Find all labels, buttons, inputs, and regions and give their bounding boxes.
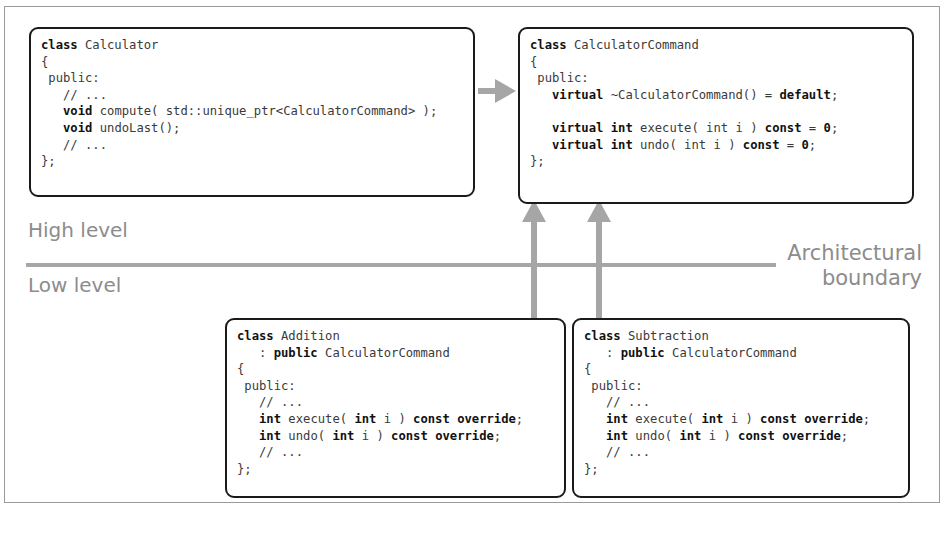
code-text: : xyxy=(237,346,274,360)
code-text: i ) xyxy=(723,412,760,426)
code-line: }; xyxy=(584,461,898,478)
code-text: ; xyxy=(809,138,816,152)
code-text: ; xyxy=(516,412,523,426)
code-text: i ) xyxy=(354,429,391,443)
code-text: // ... xyxy=(41,88,107,102)
code-text: // ... xyxy=(41,138,107,152)
code-text: // ... xyxy=(237,395,303,409)
code-text: ~CalculatorCommand() = xyxy=(603,88,779,102)
code-keyword: int xyxy=(611,138,633,152)
code-line: // ... xyxy=(584,444,898,461)
code-line: { xyxy=(530,54,902,71)
code-line: void compute( std::unique_ptr<Calculator… xyxy=(41,103,463,120)
code-text: undo( xyxy=(281,429,332,443)
code-line: int undo( int i ) const override; xyxy=(584,428,898,445)
code-keyword: virtual xyxy=(552,88,603,102)
boundary-label-line1: Architectural xyxy=(787,241,922,266)
code-text xyxy=(584,429,606,443)
code-text: // ... xyxy=(237,445,303,459)
code-keyword: int xyxy=(679,429,701,443)
code-keyword: int xyxy=(259,412,281,426)
code-text xyxy=(530,138,552,152)
code-line: { xyxy=(237,361,554,378)
code-text: execute( xyxy=(628,412,701,426)
code-keyword: const override xyxy=(738,429,841,443)
code-text: undo( xyxy=(628,429,679,443)
code-line: // ... xyxy=(237,394,554,411)
code-text xyxy=(584,412,606,426)
code-keyword: 0 xyxy=(824,121,831,135)
code-text xyxy=(41,104,63,118)
code-keyword: class xyxy=(530,38,567,52)
addition-class-box: class Addition : public CalculatorComman… xyxy=(225,318,566,498)
code-text: Calculator xyxy=(78,38,159,52)
code-text: }; xyxy=(237,462,252,476)
code-text xyxy=(237,429,259,443)
code-text: CalculatorCommand xyxy=(318,346,450,360)
code-line: : public CalculatorCommand xyxy=(584,345,898,362)
code-text: CalculatorCommand xyxy=(665,346,797,360)
code-keyword: virtual xyxy=(552,121,603,135)
code-text: = xyxy=(780,138,802,152)
code-line: class Subtraction xyxy=(584,328,898,345)
architectural-boundary-label: Architectural boundary xyxy=(787,241,922,291)
code-line: int execute( int i ) const override; xyxy=(584,411,898,428)
code-keyword: int xyxy=(606,429,628,443)
code-keyword: 0 xyxy=(802,138,809,152)
code-text xyxy=(603,121,610,135)
code-line: int undo( int i ) const override; xyxy=(237,428,554,445)
code-keyword: int xyxy=(354,412,376,426)
code-text: compute( std::unique_ptr<CalculatorComma… xyxy=(92,104,437,118)
code-line: class Calculator xyxy=(41,37,463,54)
code-text: ; xyxy=(841,429,848,443)
code-line: }; xyxy=(530,153,902,170)
code-text: i ) xyxy=(701,429,738,443)
code-line: public: xyxy=(584,378,898,395)
subtraction-class-box: class Subtraction : public CalculatorCom… xyxy=(572,318,910,498)
code-text: { xyxy=(237,362,244,376)
code-line: }; xyxy=(41,153,463,170)
code-line: void undoLast(); xyxy=(41,120,463,137)
code-text: execute( int i ) xyxy=(633,121,765,135)
code-line: public: xyxy=(237,378,554,395)
code-line: virtual int execute( int i ) const = 0; xyxy=(530,120,902,137)
code-text xyxy=(41,121,63,135)
code-keyword: const override xyxy=(760,412,863,426)
code-text: undo( int i ) xyxy=(633,138,743,152)
high-level-label: High level xyxy=(28,218,128,242)
code-keyword: int xyxy=(611,121,633,135)
code-text: // ... xyxy=(584,445,650,459)
code-line: // ... xyxy=(41,87,463,104)
code-line: virtual ~CalculatorCommand() = default; xyxy=(530,87,902,104)
code-line: // ... xyxy=(237,444,554,461)
code-text: }; xyxy=(41,154,56,168)
arrow-subtraction-to-command xyxy=(587,200,611,320)
low-level-label: Low level xyxy=(28,273,121,297)
code-line: // ... xyxy=(41,137,463,154)
code-text: ; xyxy=(494,429,501,443)
code-text: }; xyxy=(584,462,599,476)
code-text: { xyxy=(584,362,591,376)
code-text: { xyxy=(530,55,537,69)
code-text: public: xyxy=(41,71,100,85)
code-keyword: public xyxy=(274,346,318,360)
code-line: { xyxy=(41,54,463,71)
code-keyword: virtual xyxy=(552,138,603,152)
architectural-boundary-line xyxy=(26,263,776,267)
code-text: ; xyxy=(831,121,838,135)
code-text: undoLast(); xyxy=(92,121,180,135)
code-text: i ) xyxy=(376,412,413,426)
code-text xyxy=(530,88,552,102)
code-text: // ... xyxy=(584,395,650,409)
code-keyword: public xyxy=(621,346,665,360)
code-keyword: class xyxy=(584,329,621,343)
code-line: : public CalculatorCommand xyxy=(237,345,554,362)
code-text: public: xyxy=(530,71,589,85)
code-text: public: xyxy=(584,379,643,393)
calculator-class-box: class Calculator{ public: // ... void co… xyxy=(29,27,475,197)
code-line: int execute( int i ) const override; xyxy=(237,411,554,428)
caption-area xyxy=(4,507,944,535)
code-line: class CalculatorCommand xyxy=(530,37,902,54)
code-text: CalculatorCommand xyxy=(567,38,699,52)
code-text: }; xyxy=(530,154,545,168)
